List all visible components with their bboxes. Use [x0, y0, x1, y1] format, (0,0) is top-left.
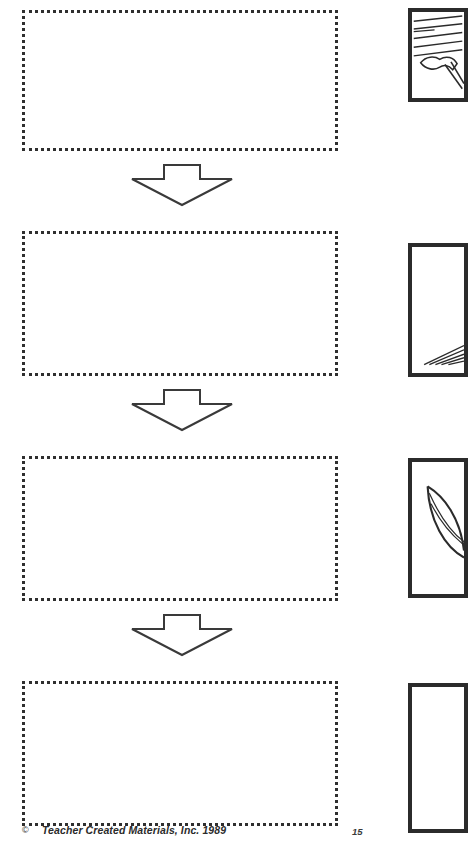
copyright-icon: ©: [22, 825, 29, 835]
blank-panel-icon: [412, 687, 464, 829]
flow-arrow-down-icon-2: [130, 388, 234, 432]
illustration-panel-2: [408, 243, 468, 377]
flow-arrow-down-icon-3: [130, 613, 234, 657]
page-number: 15: [352, 826, 363, 837]
flow-arrow-down-icon-1: [130, 163, 234, 207]
leaf-shape-icon: [412, 462, 464, 594]
illustration-panel-1: [408, 8, 468, 102]
response-box-3[interactable]: [22, 456, 338, 601]
illustration-panel-3: [408, 458, 468, 598]
copyright-text: Teacher Created Materials, Inc. 1989: [42, 824, 226, 836]
footer: © Teacher Created Materials, Inc. 1989: [22, 824, 382, 842]
response-box-2[interactable]: [22, 231, 338, 376]
response-box-1[interactable]: [22, 10, 338, 151]
illustration-panel-4: [408, 683, 468, 833]
hatched-lines-icon: [412, 247, 464, 373]
hatched-lines-with-hand-icon: [412, 12, 464, 98]
response-box-4[interactable]: [22, 681, 338, 826]
